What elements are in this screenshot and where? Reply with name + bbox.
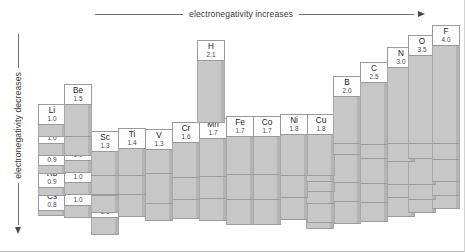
element-electronegativity-value: 1.0 <box>74 197 83 203</box>
element-cell-be: Be1.5 <box>64 84 92 105</box>
element-cell-li: Li1.0 <box>38 104 66 125</box>
element-bar-face: Cu1.8 <box>307 114 335 135</box>
element-symbol: Cr <box>182 125 191 133</box>
element-symbol: Li <box>49 107 55 115</box>
element-cell-cr: Cr1.6 <box>172 122 200 143</box>
element-symbol: Ti <box>129 131 136 139</box>
element-bar-face: F4.0 <box>432 25 460 46</box>
element-cell-f: F4.0 <box>432 25 460 46</box>
element-electronegativity-value: 1.8 <box>290 126 299 132</box>
element-electronegativity-value: 1.3 <box>155 141 164 147</box>
element-bar-face: H2.1 <box>197 40 225 61</box>
element-bar-face: Cr1.6 <box>172 122 200 143</box>
element-cell-ti: Ti1.4 <box>118 128 146 149</box>
element-cell-c: C2.5 <box>360 62 388 83</box>
element-symbol: Be <box>73 87 83 95</box>
element-cell-fe: Fe1.7 <box>226 116 254 137</box>
element-cell-h: H2.1 <box>197 40 225 61</box>
element-bar-face: Co1.7 <box>253 116 281 137</box>
element-electronegativity-value: 1.7 <box>263 128 272 134</box>
element-electronegativity-value: 2.1 <box>207 52 216 58</box>
element-symbol: Sc <box>100 134 110 142</box>
element-electronegativity-value: 0.8 <box>48 223 57 229</box>
element-bar-face: Fe1.7 <box>226 116 254 137</box>
element-electronegativity-value: 1.5 <box>74 96 83 102</box>
element-electronegativity-value: 2.5 <box>370 74 379 80</box>
element-electronegativity-value: 1.6 <box>182 134 191 140</box>
element-symbol: Fe <box>235 119 245 127</box>
element-electronegativity-value: 0.9 <box>48 157 57 163</box>
element-bar-face: Sc1.3 <box>91 131 119 152</box>
element-cell-v: V1.3 <box>145 129 173 150</box>
element-electronegativity-value: 0.8 <box>48 202 57 208</box>
element-bar-face: Li1.0 <box>38 104 66 125</box>
element-symbol: B <box>344 79 349 87</box>
element-electronegativity-value: 1.4 <box>128 140 137 146</box>
element-electronegativity-value: 1.0 <box>48 116 57 122</box>
element-symbol: F <box>443 28 448 36</box>
element-bar-face: C2.5 <box>360 62 388 83</box>
element-bar-face: Ti1.4 <box>118 128 146 149</box>
element-electronegativity-value: 1.8 <box>317 126 326 132</box>
element-symbol: Cu <box>316 117 326 125</box>
element-bar-face: Be1.5 <box>64 84 92 105</box>
element-symbol: Ni <box>290 117 298 125</box>
element-electronegativity-value: 1.3 <box>101 143 110 149</box>
periodic-table-bars: F4.0O3.5H2.1N3.0C2.5Cl3.0S2.5B2.0Be1.5P2… <box>0 0 465 252</box>
element-symbol: O <box>419 38 425 46</box>
element-bar-face: V1.3 <box>145 129 173 150</box>
element-electronegativity-value: 1.0 <box>74 174 83 180</box>
chart-canvas: electronegativity increases electronegat… <box>0 0 465 252</box>
element-electronegativity-value: 3.0 <box>397 59 406 65</box>
element-bar-face: Ni1.8 <box>280 114 308 135</box>
element-symbol: H <box>208 43 214 51</box>
element-symbol: V <box>156 132 161 140</box>
element-cell-cu: Cu1.8 <box>307 114 335 135</box>
element-cell-b: B2.0 <box>333 76 361 97</box>
element-electronegativity-value: 1.7 <box>209 130 218 136</box>
element-symbol: C <box>371 65 377 73</box>
element-symbol: Co <box>262 119 272 127</box>
element-electronegativity-value: 0.9 <box>48 179 57 185</box>
element-electronegativity-value: 3.5 <box>418 47 427 53</box>
element-bar-face: B2.0 <box>333 76 361 97</box>
element-cell-co: Co1.7 <box>253 116 281 137</box>
element-electronegativity-value: 1.0 <box>74 219 83 225</box>
element-cell-sc: Sc1.3 <box>91 131 119 152</box>
element-symbol: N <box>398 50 404 58</box>
element-electronegativity-value: 1.7 <box>236 128 245 134</box>
element-cell-ni: Ni1.8 <box>280 114 308 135</box>
element-electronegativity-value: 2.0 <box>343 88 352 94</box>
element-electronegativity-value: 4.0 <box>442 37 451 43</box>
